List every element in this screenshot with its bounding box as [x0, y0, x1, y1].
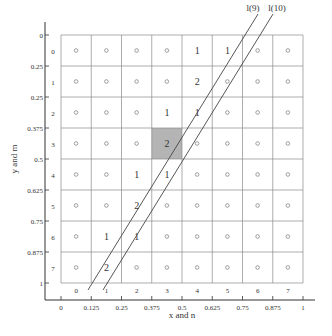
empty-cell-marker [286, 111, 290, 115]
empty-cell-marker [165, 49, 169, 53]
empty-cell-marker [256, 80, 260, 84]
y-tick-label: 0.625 [27, 187, 43, 195]
empty-cell-marker [135, 80, 139, 84]
empty-cell-marker [105, 173, 109, 177]
cell-value: 2 [195, 76, 200, 87]
y-tick-label: 1 [40, 280, 44, 288]
empty-cell-marker [226, 173, 230, 177]
line-label-l9: l(9) [247, 3, 260, 13]
y-tick-label: 0.75 [31, 218, 44, 226]
row-index: 1 [51, 79, 55, 87]
x-tick-label: 0 [59, 304, 63, 312]
y-tick-label: 0.875 [27, 249, 43, 257]
empty-cell-marker [195, 142, 199, 146]
y-tick-label: 0.5 [34, 156, 43, 164]
empty-cell-marker [195, 204, 199, 208]
empty-cell-marker [74, 235, 78, 239]
empty-cell-marker [105, 204, 109, 208]
empty-cell-marker [256, 204, 260, 208]
empty-cell-marker [286, 204, 290, 208]
empty-cell-marker [256, 266, 260, 270]
line-label-l10: l(10) [268, 3, 286, 13]
empty-cell-marker [195, 266, 199, 270]
column-index: 1 [105, 287, 109, 295]
empty-cell-marker [256, 142, 260, 146]
empty-cell-marker [74, 49, 78, 53]
empty-cell-marker [195, 235, 199, 239]
row-index: 4 [51, 172, 55, 180]
empty-cell-marker [74, 80, 78, 84]
row-index: 0 [51, 48, 55, 56]
y-tick-label: 0.25 [31, 63, 44, 71]
x-tick-label: 1 [301, 304, 305, 312]
empty-cell-marker [74, 111, 78, 115]
column-index: 4 [195, 287, 199, 295]
cell-value: 1 [134, 169, 139, 180]
y-axis: 00.250.250.3750.50.6250.750.8751 0123456… [9, 22, 55, 300]
empty-cell-marker [256, 111, 260, 115]
empty-cell-marker [105, 80, 109, 84]
column-index: 5 [226, 287, 230, 295]
row-index: 2 [51, 110, 55, 118]
empty-cell-marker [226, 235, 230, 239]
empty-cell-marker [286, 235, 290, 239]
y-tick-label: 0 [40, 32, 44, 40]
row-index: 6 [51, 234, 55, 242]
cell-value: 1 [225, 45, 230, 56]
empty-cell-marker [195, 173, 199, 177]
cell-value: 2 [134, 200, 139, 211]
cell-value: 1 [164, 107, 169, 118]
empty-cell-marker [226, 111, 230, 115]
empty-cell-marker [286, 49, 290, 53]
empty-cell-marker [135, 49, 139, 53]
pixel-grid-diagram: 112112112112 00.250.250.3750.50.6250.750… [0, 0, 332, 336]
empty-cell-marker [286, 142, 290, 146]
column-index: 6 [256, 287, 260, 295]
empty-cell-marker [135, 111, 139, 115]
empty-cell-marker [226, 204, 230, 208]
cell-value: 1 [164, 169, 169, 180]
column-index: 3 [165, 287, 169, 295]
empty-cell-marker [286, 173, 290, 177]
grid-lines [61, 35, 303, 283]
x-tick-label: 0.25 [115, 304, 128, 312]
column-index: 2 [135, 287, 139, 295]
empty-cell-marker [165, 80, 169, 84]
y-axis-label: y and m [9, 145, 19, 174]
empty-cell-marker [165, 204, 169, 208]
x-axis: 00.1250.250.3750.50.6250.750.8751 012345… [45, 287, 315, 320]
x-tick-label: 0.75 [236, 304, 249, 312]
row-index: 3 [51, 141, 55, 149]
x-tick-label: 0.375 [144, 304, 160, 312]
empty-cell-marker [226, 266, 230, 270]
y-tick-label: 0.375 [27, 125, 43, 133]
empty-cell-marker [256, 235, 260, 239]
empty-cell-marker [256, 49, 260, 53]
cell-value: 2 [164, 138, 169, 149]
empty-cell-marker [74, 266, 78, 270]
empty-cell-marker [256, 173, 260, 177]
row-index: 7 [51, 265, 55, 273]
empty-cell-marker [165, 266, 169, 270]
line-l9 [88, 14, 258, 290]
empty-cell-marker [286, 80, 290, 84]
empty-cell-marker [286, 266, 290, 270]
x-tick-label: 0.875 [265, 304, 281, 312]
empty-cell-marker [105, 49, 109, 53]
column-index: 0 [74, 287, 78, 295]
empty-cell-marker [105, 142, 109, 146]
empty-cell-marker [226, 80, 230, 84]
x-tick-label: 0.125 [83, 304, 99, 312]
empty-cell-marker [165, 235, 169, 239]
empty-cell-marker [74, 173, 78, 177]
cell-value: 1 [195, 45, 200, 56]
empty-cell-marker [105, 111, 109, 115]
empty-cell-marker [135, 266, 139, 270]
cell-value: 1 [104, 231, 109, 242]
x-tick-label: 0.625 [204, 304, 220, 312]
line-l10 [103, 14, 273, 290]
row-index: 5 [51, 203, 55, 211]
empty-cell-marker [74, 142, 78, 146]
column-index: 7 [286, 287, 290, 295]
x-axis-label: x and n [169, 310, 196, 320]
